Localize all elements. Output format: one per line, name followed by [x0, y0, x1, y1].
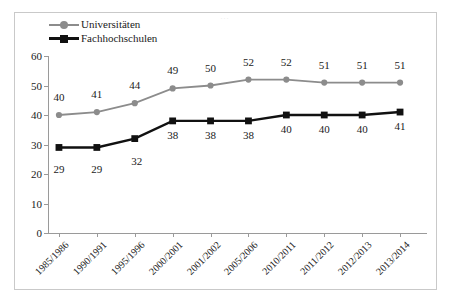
data-point-marker	[132, 100, 138, 106]
legend-label-fachhochschulen: Fachhochschulen	[81, 33, 157, 44]
data-point-marker	[283, 77, 289, 83]
data-point-marker	[169, 118, 176, 125]
data-point-marker	[94, 109, 100, 115]
y-tick-label: 10	[31, 198, 42, 210]
data-point-label: 52	[281, 56, 292, 68]
y-tick-label: 60	[31, 50, 42, 62]
data-point-marker	[56, 144, 63, 151]
data-point-marker	[131, 135, 138, 142]
data-point-marker	[56, 112, 62, 118]
data-point-label: 49	[167, 64, 178, 76]
series-line-1	[59, 112, 400, 147]
data-point-label: 29	[53, 163, 64, 175]
y-tick-label: 40	[31, 109, 42, 121]
x-tick-mark	[362, 233, 363, 237]
scan-artifact: ···	[220, 13, 260, 21]
data-point-label: 52	[243, 56, 254, 68]
data-point-label: 50	[205, 62, 216, 74]
data-point-marker	[245, 77, 251, 83]
x-tick-mark	[173, 233, 174, 237]
data-point-label: 51	[319, 59, 330, 71]
data-point-label: 40	[357, 123, 368, 135]
data-point-marker	[359, 79, 365, 85]
data-point-marker	[207, 82, 213, 88]
x-tick-mark	[248, 233, 249, 237]
chart-legend: Universitäten Fachhochschulen	[49, 18, 157, 46]
x-tick-mark	[135, 233, 136, 237]
y-tick-label: 30	[31, 139, 42, 151]
legend-item-fachhochschulen: Fachhochschulen	[49, 32, 157, 45]
data-point-marker	[170, 85, 176, 91]
data-point-label: 51	[357, 59, 368, 71]
y-tick-label: 20	[31, 168, 42, 180]
data-point-marker	[93, 144, 100, 151]
x-tick-mark	[59, 233, 60, 237]
data-point-label: 40	[281, 123, 292, 135]
data-point-marker	[397, 79, 403, 85]
legend-key-line-circle-icon	[49, 19, 79, 30]
data-point-label: 38	[205, 129, 216, 141]
data-point-label: 41	[395, 120, 406, 132]
series-line-0	[59, 80, 400, 115]
data-point-marker	[359, 112, 366, 119]
data-point-label: 38	[167, 129, 178, 141]
data-point-marker	[397, 109, 404, 116]
data-point-label: 51	[395, 59, 406, 71]
data-point-marker	[321, 112, 328, 119]
x-tick-mark	[97, 233, 98, 237]
legend-key-line-square-icon	[49, 33, 79, 44]
x-tick-mark	[286, 233, 287, 237]
y-tick-mark	[44, 233, 48, 234]
data-point-label: 44	[129, 79, 140, 91]
data-point-label: 38	[243, 129, 254, 141]
plot-area: 0102030405060 1985/19861990/19911995/199…	[48, 56, 427, 233]
data-point-marker	[207, 118, 214, 125]
data-point-label: 29	[91, 163, 102, 175]
x-tick-mark	[211, 233, 212, 237]
y-tick-label: 0	[37, 227, 43, 239]
x-tick-mark	[400, 233, 401, 237]
legend-label-universitaeten: Universitäten	[81, 19, 140, 30]
data-point-marker	[321, 79, 327, 85]
x-tick-mark	[324, 233, 325, 237]
x-axis-line	[48, 233, 427, 234]
y-tick-label: 50	[31, 80, 42, 92]
data-point-marker	[283, 112, 290, 119]
data-point-label: 40	[53, 91, 64, 103]
series-lines	[48, 56, 427, 233]
data-point-marker	[245, 118, 252, 125]
data-point-label: 32	[131, 155, 142, 167]
data-point-label: 41	[91, 88, 102, 100]
legend-item-universitaeten: Universitäten	[49, 18, 157, 31]
data-point-label: 40	[319, 123, 330, 135]
